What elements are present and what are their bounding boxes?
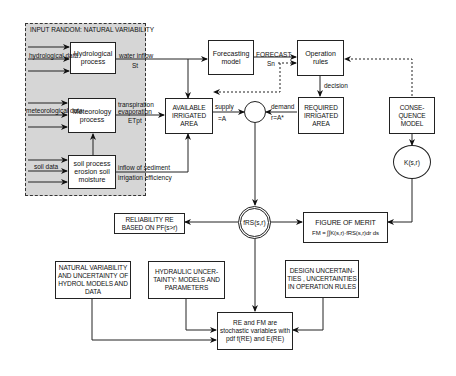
design-uncertainties-label: DESIGN UNCERTAIN- TIES , UNCERTAINTIES I… [287,267,357,291]
irrigation-efficiency-label: irrigation efficiency [118,174,172,181]
soil-data-label: soil data [34,163,58,170]
hydro-data-label: hydrological data [29,52,78,59]
transpiration-label: transpiration [118,101,154,108]
figure-of-merit-box: FIGURE OF MERIT FM = ∫∫K(s,r)·fRS(s,r)dr… [303,212,388,243]
consequence-model-box: CONSE- QUENCE MODEL [389,97,435,134]
consequence-model-label: CONSE- QUENCE MODEL [391,104,433,128]
f-rs-circle: fRS(s,r) [238,206,271,239]
reliability-label: RELIABILITY RE BASED ON PF(s>r) [116,216,183,232]
natural-variability-box: NATURAL VARIABILITY AND UNCERTAINTY OF H… [55,261,131,299]
f-rs-label: fRS(s,r) [243,219,265,226]
water-inflow-symbol: St [132,62,138,69]
hydraulic-uncertainty-label: HYDRAULIC UNCER- TAINTY: MODELS AND PARA… [150,268,223,292]
demand-symbol: r=A* [271,114,284,121]
forecast-symbol: Sn [267,60,275,67]
hydraulic-uncertainty-box: HYDRAULIC UNCER- TAINTY: MODELS AND PARA… [148,261,225,299]
reliability-box: RELIABILITY RE BASED ON PF(s>r) [114,213,185,234]
forecasting-model-label: Forecasting model [210,50,252,66]
figure-of-merit-title: FIGURE OF MERIT [315,219,375,227]
water-inflow-label: water inflow [119,52,153,59]
figure-of-merit-formula: FM = ∫∫K(s,r)·fRS(s,r)dr ds [312,229,379,237]
operation-rules-label: Operation rules [299,50,342,66]
natural-variability-label: NATURAL VARIABILITY AND UNCERTAINTY OF H… [57,264,129,296]
available-irrigated-area-label: AVAILABLE IRRIGATED AREA [167,104,211,128]
soil-process-box: soil process erosion soil moisture [68,155,116,189]
supply-label: supply [215,103,234,110]
hydrological-process-label: Hydrological process [72,50,114,66]
stochastic-result-box: RE and FM are stochastic variables with … [217,312,293,350]
soil-process-label: soil process erosion soil moisture [70,160,114,184]
sediment-label: inflow of sediment [118,164,170,171]
comparison-node [244,101,266,123]
forecast-label: FORECAST [256,51,291,58]
available-irrigated-area-box: AVAILABLE IRRIGATED AREA [165,98,213,134]
forecasting-model-box: Forecasting model [208,40,254,75]
required-irrigated-area-label: REQUIRED IRRIGATED AREA [300,104,342,128]
et-label: ETpt [128,117,142,124]
required-irrigated-area-box: REQUIRED IRRIGATED AREA [298,97,344,134]
demand-label: demand [271,103,295,110]
meteo-data-label: meteorological data [26,107,83,114]
meteorology-process-box: Meteorology process [68,98,116,133]
design-uncertainties-box: DESIGN UNCERTAIN- TIES , UNCERTAINTIES I… [285,260,359,298]
stochastic-result-label: RE and FM are stochastic variables with … [219,319,291,343]
supply-symbol: =A [218,115,226,122]
k-function-circle: K(s,r) [393,145,431,179]
k-function-label: K(s,r) [404,159,420,166]
evaporation-label: evaporation [118,108,152,115]
decision-label: decision [324,82,348,89]
operation-rules-box: Operation rules [297,40,344,76]
